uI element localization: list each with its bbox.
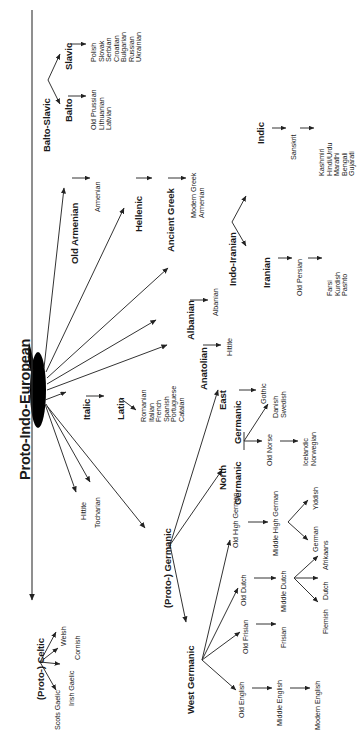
- leaf-middle-english: Middle English: [276, 680, 284, 726]
- leaf-old-frisian: Old Frisian: [242, 620, 250, 654]
- leaf-old-english: Old English: [238, 682, 246, 718]
- leaf-iranian-languages: Farsi Kurdish Pashto: [326, 272, 349, 296]
- leaf-frisian: Frisian: [280, 627, 288, 648]
- edge-mhg-german: [288, 522, 308, 540]
- diagram-canvas: Proto-Indo-European Balto-Slavic Slavic …: [0, 0, 358, 735]
- node-old-armenian[interactable]: Old Armenian: [70, 203, 80, 264]
- leaf-sanskrit: Sanskrit: [290, 134, 298, 160]
- node-indic[interactable]: Indic: [256, 122, 266, 144]
- leaf-old-norse: Old Norse: [266, 434, 274, 466]
- leaf-norse-east-group: Danish Swedish: [272, 391, 287, 418]
- node-italic[interactable]: Italic: [82, 399, 92, 420]
- node-iranian[interactable]: Iranian: [262, 257, 272, 288]
- leaf-albanian: Albanian: [212, 288, 220, 316]
- node-hellenic[interactable]: Hellenic: [134, 196, 144, 232]
- node-east-germanic-line1[interactable]: East: [218, 390, 228, 410]
- edge-pie-indoiranian: [47, 268, 168, 378]
- leaf-gothic: Gothic: [260, 384, 268, 404]
- leaf-indic-languages: Kashmiri Hindi/Urdu Marathi Bengali Guja…: [318, 143, 356, 176]
- leaf-german: German: [312, 526, 320, 552]
- edge-baltoslavic-slavic: [48, 54, 60, 80]
- leaf-irish-gaelic: Irish Gaelic: [68, 671, 76, 706]
- edge-westgermanic-oldenglish: [202, 660, 236, 690]
- node-ancient-greek[interactable]: Ancient Greek: [166, 188, 176, 252]
- edge-germanic-north: [170, 470, 222, 545]
- leaf-yiddish: Yiddish: [312, 487, 320, 510]
- leaf-cornish: Cornish: [74, 636, 82, 660]
- leaf-norse-west-group: Icelandic Norwegian: [302, 432, 317, 466]
- leaf-norwegian: Norwegian: [310, 432, 318, 466]
- node-baltic[interactable]: Balto: [64, 99, 74, 123]
- node-slavic[interactable]: Slavic: [64, 43, 74, 70]
- leaf-middle-high-german: Middle High German: [272, 491, 280, 556]
- node-latin[interactable]: Latin: [116, 398, 126, 420]
- leaf-dutch: Dutch: [322, 581, 330, 600]
- leaf-scots-gaelic: Scots Gaelic: [54, 690, 62, 730]
- page-title: Proto-Indo-European: [18, 339, 33, 480]
- leaf-romance-languages: Romanian Italian French Spanish Portugue…: [140, 386, 185, 422]
- node-indo-iranian[interactable]: Indo-Iranian: [228, 232, 238, 286]
- leaf-swedish: Swedish: [280, 391, 288, 418]
- edge-middledutch-afrikaans: [294, 556, 318, 578]
- node-anatolian[interactable]: Anatolian: [199, 347, 209, 390]
- edge-pie-anatolian: [47, 345, 167, 390]
- leaf-old-high-german: Old High German: [232, 493, 240, 548]
- leaf-old-persian: Old Persian: [296, 259, 304, 296]
- leaf-gujarati: Gujarati: [348, 143, 356, 176]
- leaf-tocharian: Tocharian: [94, 497, 102, 528]
- edge-westgermanic-olddutch: [202, 588, 238, 660]
- leaf-irish: Irish Gaelic: [68, 671, 76, 706]
- edge-pie-albanian: [47, 320, 156, 384]
- edge-indoiranian-indic: [232, 196, 246, 222]
- node-east-germanic-line2[interactable]: Germanic: [233, 401, 243, 444]
- edge-middledutch-flemish: [294, 578, 318, 602]
- leaf-greek-group: Modern Greek Armenian: [190, 173, 205, 218]
- node-proto-celtic[interactable]: (Proto-) Celtic: [36, 638, 46, 700]
- leaf-modern-english: Modern English: [314, 681, 322, 730]
- node-proto-germanic[interactable]: (Proto-) Germanic: [163, 528, 173, 608]
- node-north-germanic-line1[interactable]: North: [218, 465, 228, 490]
- leaf-old-dutch: Old Dutch: [240, 574, 248, 606]
- leaf-ohg-line1: Old High German: [232, 493, 240, 548]
- edge-pie-italic: [45, 392, 66, 400]
- leaf-afrikaans: Afrikaans: [322, 540, 330, 570]
- leaf-slavic-languages: Polish Slovak Serbian Croatian Bulgarian…: [90, 32, 143, 62]
- leaf-flemish: Flemish: [322, 609, 330, 634]
- leaf-hittite-direct: Hittite: [80, 502, 88, 520]
- tree-edges: [0, 0, 358, 735]
- leaf-pashto: Pashto: [341, 272, 349, 296]
- leaf-latvian: Latvian: [105, 89, 113, 130]
- node-west-germanic[interactable]: West Germanic: [186, 646, 196, 714]
- leaf-welsh: Welsh: [60, 626, 68, 646]
- leaf-baltic-languages: Old Prussian Lithuanian Latvian: [90, 89, 113, 130]
- edge-mhg-yiddish: [288, 500, 308, 522]
- leaf-armenian-2: Armenian: [198, 173, 206, 218]
- leaf-middle-dutch: Middle Dutch: [280, 571, 288, 612]
- node-balto-slavic[interactable]: Balto-Slavic: [42, 98, 52, 152]
- leaf-ukrainian: Ukrainian: [135, 32, 143, 62]
- leaf-armenian: Armenian: [94, 182, 102, 212]
- leaf-hittite-anatolian: Hittite: [226, 338, 234, 356]
- leaf-catalan: Catalan: [178, 386, 186, 422]
- edge-pie-hellenic: [46, 208, 124, 372]
- node-albanian-branch[interactable]: Albanian: [186, 300, 196, 340]
- leaf-scots: Scots Gaelic: [54, 690, 62, 730]
